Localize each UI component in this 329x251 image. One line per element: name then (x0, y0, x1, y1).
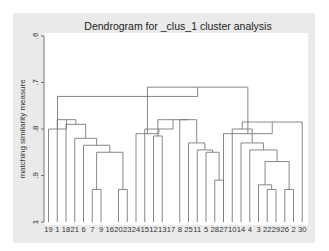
y-axis-ticks: .6.7.8.91 (31, 32, 44, 224)
leaf-label: 20 (114, 225, 122, 234)
leaf-label: 2 (291, 225, 295, 234)
leaf-label: 11 (193, 225, 201, 234)
leaf-label: 3 (256, 225, 260, 234)
leaf-label: 19 (44, 225, 52, 234)
leaf-label: 14 (237, 225, 245, 234)
leaf-label: 7 (90, 225, 94, 234)
y-tick-label: .7 (31, 79, 40, 86)
leaf-label: 18 (62, 225, 70, 234)
leaf-label: 9 (99, 225, 103, 234)
y-tick-label: .9 (31, 172, 40, 179)
leaf-label: 30 (298, 225, 306, 234)
leaf-labels: 1911821679162023241512131782511528271014… (44, 225, 306, 234)
y-axis-label: matching similarity measure (18, 79, 27, 179)
leaf-label: 12 (149, 225, 157, 234)
leaf-label: 5 (204, 225, 208, 234)
y-tick-label: .6 (31, 32, 40, 39)
leaf-label: 6 (81, 225, 85, 234)
y-tick-label: .8 (31, 125, 40, 132)
leaf-label: 10 (228, 225, 236, 234)
leaf-label: 4 (248, 225, 252, 234)
leaf-label: 21 (71, 225, 79, 234)
leaf-label: 13 (158, 225, 166, 234)
dendrogram-chart: Dendrogram for _clus_1 cluster analysis … (0, 0, 329, 251)
leaf-label: 17 (167, 225, 175, 234)
leaf-label: 25 (184, 225, 192, 234)
leaf-label: 24 (132, 225, 140, 234)
leaf-label: 28 (211, 225, 219, 234)
leaf-label: 8 (178, 225, 182, 234)
leaf-label: 1 (55, 225, 59, 234)
chart-title: Dendrogram for _clus_1 cluster analysis (84, 20, 271, 32)
leaf-label: 23 (123, 225, 131, 234)
leaf-label: 29 (272, 225, 280, 234)
y-tick-label: 1 (31, 219, 40, 224)
leaf-label: 26 (281, 225, 289, 234)
leaf-label: 16 (106, 225, 114, 234)
leaf-label: 15 (141, 225, 149, 234)
leaf-label: 22 (263, 225, 271, 234)
leaf-label: 27 (219, 225, 227, 234)
